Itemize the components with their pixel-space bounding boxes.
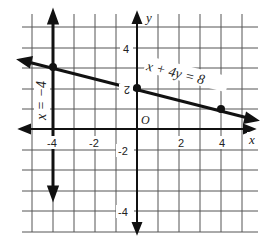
svg-text:4: 4 (123, 43, 129, 55)
svg-text:-4: -4 (47, 137, 57, 149)
point-0-2 (133, 84, 141, 92)
svg-text:-4: -4 (118, 206, 128, 218)
coordinate-plane: -4 -2 2 4 4 2 -2 -4 y x O x + 4y = 8 x =… (0, 0, 269, 249)
point-neg4-3 (49, 63, 57, 71)
point-4-1 (217, 105, 225, 113)
svg-text:2: 2 (124, 84, 130, 96)
origin-label: O (141, 113, 150, 127)
x-axis-label: x (248, 132, 255, 147)
equation-label-line: x + 4y = 8 (143, 56, 229, 92)
svg-text:4: 4 (219, 137, 225, 149)
y-axis-label: y (144, 10, 152, 25)
y-axis (133, 13, 141, 233)
svg-text:x = −4: x = −4 (34, 81, 49, 121)
svg-text:-2: -2 (89, 137, 99, 149)
svg-text:-2: -2 (118, 145, 128, 157)
svg-text:x + 4y = 8: x + 4y = 8 (144, 58, 206, 87)
equation-label-vertical: x = −4 (34, 74, 50, 122)
svg-text:2: 2 (178, 137, 184, 149)
